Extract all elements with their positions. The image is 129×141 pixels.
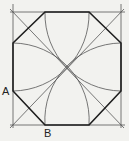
octagon-construction-diagram [0,0,129,141]
label-a: A [2,86,9,97]
label-b: B [44,128,51,139]
diagonals [10,9,124,128]
